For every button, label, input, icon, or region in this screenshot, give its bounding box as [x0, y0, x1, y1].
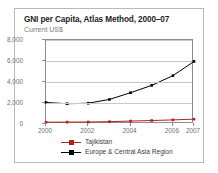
- y-tick-mark: [42, 60, 45, 61]
- legend-item-tajikistan[interactable]: Tajikistan: [15, 137, 205, 147]
- x-tick-label: 2006: [165, 127, 179, 134]
- legend-label-tajikistan: Tajikistan: [85, 138, 112, 146]
- data-point-marker: [172, 74, 175, 77]
- gridline: [46, 82, 192, 83]
- data-point-marker: [108, 98, 111, 101]
- y-tick-label: 8,000: [0, 36, 23, 43]
- legend-label-europe-central-asia: Europe & Central Asia Region: [85, 148, 173, 156]
- x-tick-mark: [172, 123, 173, 126]
- data-point-marker: [66, 121, 69, 124]
- gridline: [46, 61, 192, 62]
- x-tick-label: 2002: [80, 127, 94, 134]
- y-tick-label: 0: [0, 120, 23, 127]
- data-point-marker: [150, 119, 153, 122]
- data-point-marker: [193, 60, 196, 63]
- gridline: [46, 103, 192, 104]
- gridline: [46, 40, 192, 41]
- x-tick-label: 2000: [38, 127, 52, 134]
- x-tick-mark: [130, 123, 131, 126]
- x-tick-mark: [193, 123, 194, 126]
- data-point-marker: [172, 119, 175, 122]
- chart-figure-frame: GNI per Capita, Atlas Method, 2000–07 Cu…: [14, 8, 204, 163]
- chart-legend: Tajikistan Europe & Central Asia Region: [15, 137, 205, 157]
- data-point-marker: [150, 84, 153, 87]
- y-tick-label: 4,000: [0, 78, 23, 85]
- data-point-marker: [108, 120, 111, 123]
- x-tick-label: 2007: [186, 127, 200, 134]
- legend-item-europe-central-asia[interactable]: Europe & Central Asia Region: [15, 147, 205, 157]
- x-tick-label: 2004: [122, 127, 136, 134]
- legend-swatch-tajikistan: [61, 138, 81, 146]
- y-tick-mark: [42, 102, 45, 103]
- x-tick-mark: [45, 123, 46, 126]
- y-tick-label: 6,000: [0, 57, 23, 64]
- y-tick-mark: [42, 81, 45, 82]
- x-tick-mark: [87, 123, 88, 126]
- y-tick-mark: [42, 39, 45, 40]
- legend-swatch-europe-central-asia: [61, 148, 81, 156]
- y-tick-label: 2,000: [0, 99, 23, 106]
- data-point-marker: [129, 91, 132, 94]
- data-point-marker: [129, 120, 132, 123]
- data-point-marker: [193, 118, 196, 121]
- plot-area: [45, 39, 193, 123]
